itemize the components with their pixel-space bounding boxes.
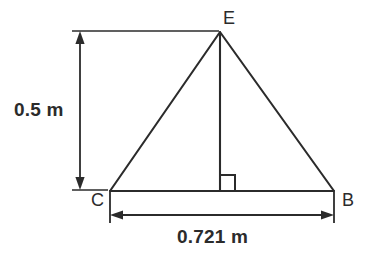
base-dimension-label: 0.721 m [177, 226, 248, 248]
base-arrowhead-left-icon [110, 210, 123, 219]
vertex-label-e: E [223, 8, 235, 29]
height-arrowhead-up-icon [75, 31, 84, 44]
triangle-side-ce [110, 32, 220, 191]
height-dimension-label: 0.5 m [14, 99, 64, 121]
geometry-diagram: 0.5 m 0.721 m E C B [0, 0, 369, 266]
triangle-ceb [110, 32, 334, 191]
right-angle-marker-icon [221, 175, 235, 190]
base-dimension-arrow [110, 210, 334, 219]
vertex-label-c: C [91, 190, 104, 211]
triangle-side-eb [220, 32, 334, 191]
base-arrowhead-right-icon [321, 210, 334, 219]
vertex-label-b: B [342, 190, 354, 211]
height-arrowhead-down-icon [75, 177, 84, 190]
height-dimension-arrow [75, 31, 84, 190]
